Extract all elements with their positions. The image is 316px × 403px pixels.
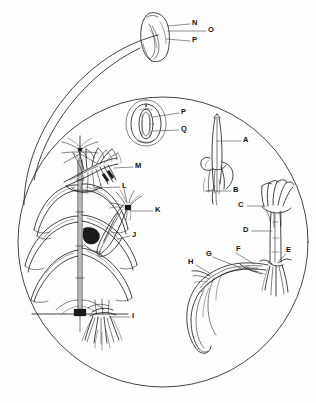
label-l: L (122, 182, 127, 190)
canvas-background (0, 0, 316, 403)
botanical-plate: .s{fill:none;stroke:#222;stroke-width:0.… (0, 0, 316, 403)
label-q: Q (181, 125, 187, 133)
plate-drawing: .s{fill:none;stroke:#222;stroke-width:0.… (0, 0, 316, 403)
label-i: I (132, 312, 134, 320)
label-o: O (208, 26, 214, 34)
label-j: J (132, 231, 136, 239)
label-f: F (236, 245, 241, 253)
label-c: C (238, 201, 244, 209)
label-h: H (188, 258, 194, 266)
label-b: B (233, 186, 239, 194)
label-k: K (155, 206, 161, 214)
label-p: P (192, 36, 197, 44)
label-p-section: P (181, 108, 186, 116)
label-d: D (243, 226, 249, 234)
label-m: M (135, 162, 141, 170)
label-n: N (192, 19, 198, 27)
label-g: G (206, 250, 212, 258)
label-a: A (243, 136, 249, 144)
label-e: E (286, 246, 291, 254)
